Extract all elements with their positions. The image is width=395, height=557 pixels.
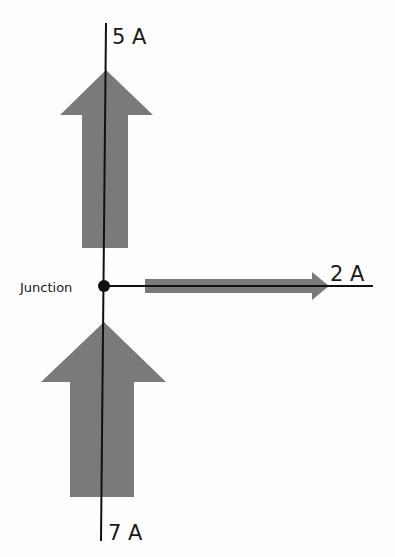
- right-current-label: 2 A: [330, 262, 365, 286]
- top-current-label: 5 A: [112, 25, 147, 49]
- junction-node: [98, 280, 110, 292]
- bottom-current-label: 7 A: [108, 521, 143, 545]
- junction-diagram: Junction 5 A 2 A 7 A: [0, 0, 395, 557]
- junction-label: Junction: [19, 280, 72, 295]
- top-current-arrow: [60, 70, 153, 248]
